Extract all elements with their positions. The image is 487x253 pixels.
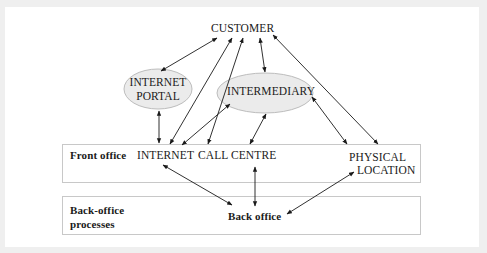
internet-portal-label-line2: PORTAL [128, 89, 188, 103]
back-office-lane-label-line1: Back-office [70, 203, 124, 217]
arrow-physical-location-back-office [287, 172, 354, 214]
physical-location-label-line1: PHYSICAL [349, 151, 406, 163]
internet-portal-label: INTERNET PORTAL [128, 75, 188, 103]
arrow-customer-internet-portal [161, 38, 217, 71]
physical-location-label-line2: LOCATION [357, 164, 415, 176]
back-office-lane-label: Back-office processes [70, 203, 124, 231]
back-office-lane-label-line2: processes [70, 217, 124, 231]
arrow-internet-back-office [163, 165, 232, 205]
arrow-intermediary-call-centre [250, 114, 266, 144]
call-centre-label: CALL CENTRE [198, 149, 276, 161]
arrow-intermediary-physical-location [312, 97, 347, 144]
front-office-lane-label: Front office [70, 149, 126, 161]
back-office-label: Back office [228, 210, 281, 222]
internet-label: INTERNET [137, 149, 194, 161]
intermediary-label: INTERMEDIARY [227, 85, 315, 97]
internet-portal-label-line1: INTERNET [128, 75, 188, 89]
arrow-customer-intermediary [260, 38, 265, 72]
customer-label: CUSTOMER [211, 22, 274, 34]
arrow-intermediary-internet [182, 104, 230, 145]
